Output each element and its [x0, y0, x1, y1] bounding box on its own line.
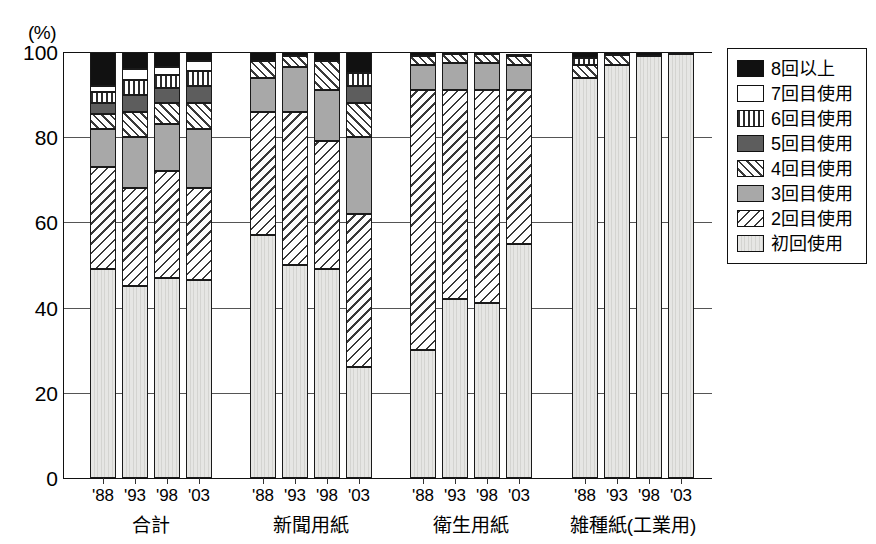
x-tick-label-雑種紙(工業用)-'93: '93 [606, 486, 628, 506]
bar-segment-初回使用 [636, 56, 662, 478]
legend-item-6回目使用[interactable]: 6回目使用 [737, 106, 857, 131]
bar-segment-4回目使用 [250, 61, 276, 78]
legend-item-8回以上[interactable]: 8回以上 [737, 56, 857, 81]
bar-合計-'93[interactable] [122, 52, 148, 478]
x-tick-mark [199, 478, 200, 484]
bar-雑種紙(工業用)-'88[interactable] [572, 52, 598, 478]
legend-swatch-icon-solid-black [737, 60, 764, 77]
bar-新聞用紙-'88[interactable] [250, 52, 276, 478]
bar-segment-4回目使用 [474, 54, 500, 63]
bar-合計-'03[interactable] [186, 52, 212, 478]
bar-segment-6回目使用 [346, 73, 372, 86]
bar-segment-2回目使用 [442, 90, 468, 299]
bar-segment-8回以上 [186, 52, 212, 61]
legend-item-2回目使用[interactable]: 2回目使用 [737, 206, 857, 231]
legend-item-4回目使用[interactable]: 4回目使用 [737, 156, 857, 181]
group-label-衛生用紙: 衛生用紙 [433, 510, 509, 537]
bar-segment-初回使用 [506, 244, 532, 478]
bar-segment-6回目使用 [122, 80, 148, 95]
bar-合計-'88[interactable] [90, 52, 116, 478]
legend-item-label: 7回目使用 [771, 85, 853, 103]
legend-swatch-icon-diagonal-hatch-down [737, 210, 764, 227]
bar-segment-4回目使用 [186, 103, 212, 129]
bar-segment-初回使用 [154, 278, 180, 478]
bar-segment-初回使用 [90, 269, 116, 478]
bar-segment-4回目使用 [506, 56, 532, 65]
y-tick-label-60: 60 [0, 212, 58, 233]
bar-segment-4回目使用 [346, 103, 372, 137]
x-tick-mark [327, 478, 328, 484]
bar-segment-8回以上 [506, 54, 532, 56]
x-tick-label-新聞用紙-'93: '93 [284, 486, 306, 506]
bar-衛生用紙-'03[interactable] [506, 52, 532, 478]
x-tick-mark [487, 478, 488, 484]
legend-swatch-icon-solid-white [737, 85, 764, 102]
y-axis-line [63, 52, 64, 478]
x-tick-label-合計-'88: '88 [92, 486, 114, 506]
bar-segment-2回目使用 [410, 90, 436, 350]
bar-segment-初回使用 [314, 269, 340, 478]
bar-segment-2回目使用 [250, 112, 276, 236]
bar-segment-初回使用 [410, 350, 436, 478]
bar-segment-3回目使用 [250, 78, 276, 112]
bar-新聞用紙-'03[interactable] [346, 52, 372, 478]
legend-item-3回目使用[interactable]: 3回目使用 [737, 181, 857, 206]
legend-swatch-icon-solid-gray [737, 185, 764, 202]
bar-segment-2回目使用 [186, 188, 212, 280]
bar-新聞用紙-'98[interactable] [314, 52, 340, 478]
bar-segment-6回目使用 [572, 58, 598, 64]
legend-item-初回使用[interactable]: 初回使用 [737, 231, 857, 256]
legend-swatch-icon-vertical-stripes [737, 110, 764, 127]
bar-segment-初回使用 [668, 54, 694, 478]
bar-segment-5回目使用 [346, 86, 372, 103]
bar-segment-3回目使用 [346, 137, 372, 214]
bar-segment-2回目使用 [346, 214, 372, 367]
bar-雑種紙(工業用)-'93[interactable] [604, 52, 630, 478]
x-tick-label-合計-'93: '93 [124, 486, 146, 506]
x-tick-mark [167, 478, 168, 484]
bar-新聞用紙-'93[interactable] [282, 52, 308, 478]
bar-雑種紙(工業用)-'98[interactable] [636, 52, 662, 478]
legend-item-5回目使用[interactable]: 5回目使用 [737, 131, 857, 156]
x-tick-mark [263, 478, 264, 484]
bar-segment-2回目使用 [154, 171, 180, 278]
y-tick-label-20: 20 [0, 382, 58, 403]
x-tick-mark [423, 478, 424, 484]
legend-item-7回目使用[interactable]: 7回目使用 [737, 81, 857, 106]
y-tick-label-80: 80 [0, 127, 58, 148]
bar-segment-2回目使用 [282, 112, 308, 265]
bar-segment-初回使用 [122, 286, 148, 478]
bar-segment-7回目使用 [154, 67, 180, 76]
x-tick-mark [585, 478, 586, 484]
legend-swatch-icon-light-vertical [737, 235, 764, 252]
x-tick-label-雑種紙(工業用)-'03: '03 [670, 486, 692, 506]
bar-segment-初回使用 [604, 65, 630, 478]
bar-segment-4回目使用 [282, 56, 308, 67]
x-tick-mark [135, 478, 136, 484]
bar-合計-'98[interactable] [154, 52, 180, 478]
x-tick-label-合計-'03: '03 [188, 486, 210, 506]
bar-segment-6回目使用 [186, 71, 212, 86]
bar-segment-8回以上 [250, 52, 276, 61]
bar-segment-2回目使用 [474, 90, 500, 303]
bar-segment-7回目使用 [186, 61, 212, 72]
bar-雑種紙(工業用)-'03[interactable] [668, 52, 694, 478]
x-tick-mark [649, 478, 650, 484]
legend-swatch-icon-solid-dark-gray [737, 135, 764, 152]
x-tick-label-合計-'98: '98 [156, 486, 178, 506]
bar-segment-5回目使用 [154, 88, 180, 103]
bar-segment-5回目使用 [186, 86, 212, 103]
group-label-雑種紙(工業用): 雑種紙(工業用) [570, 510, 697, 537]
legend-item-label: 3回目使用 [771, 185, 853, 203]
bar-segment-3回目使用 [474, 63, 500, 91]
bar-衛生用紙-'88[interactable] [410, 52, 436, 478]
bar-segment-7回目使用 [122, 69, 148, 80]
bar-segment-3回目使用 [410, 65, 436, 91]
bar-segment-6回目使用 [154, 75, 180, 88]
bar-segment-8回以上 [604, 52, 630, 55]
legend-item-label: 5回目使用 [771, 135, 853, 153]
bar-衛生用紙-'93[interactable] [442, 52, 468, 478]
bar-segment-8回以上 [314, 52, 340, 61]
x-tick-label-新聞用紙-'88: '88 [252, 486, 274, 506]
bar-衛生用紙-'98[interactable] [474, 52, 500, 478]
